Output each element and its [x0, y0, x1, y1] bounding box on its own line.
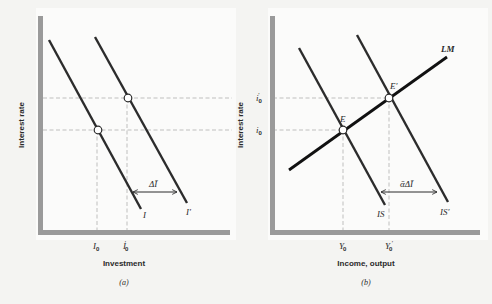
x-axis-b	[270, 230, 480, 235]
curve-label-LM: LM	[440, 44, 455, 54]
tick-Y0-prime: Y0′	[385, 239, 393, 252]
curve-label-I-prime: I′	[185, 207, 192, 217]
equilibrium-point-E	[339, 126, 347, 134]
x-axis-title-b: Income, output	[337, 259, 395, 268]
panel-b-area	[268, 8, 488, 240]
point-I0prime	[124, 94, 132, 102]
delta-I-label: ΔĪ	[148, 179, 158, 189]
x-axis-title-a: Investment	[103, 259, 146, 268]
point-label-E-prime: E′	[389, 81, 398, 91]
equilibrium-point-E-prime	[385, 94, 393, 102]
curve-label-IS-prime: IS′	[439, 207, 450, 217]
panel-caption-a: (a)	[119, 278, 129, 287]
x-axis-a	[38, 230, 230, 235]
alpha-delta-I-label: ᾱΔĪ	[400, 179, 414, 189]
y-axis-title-b: Interest rate	[236, 102, 245, 148]
panel-caption-b: (b)	[361, 278, 371, 287]
y-axis-title-a: Interest rate	[17, 102, 26, 148]
point-I0	[94, 126, 102, 134]
point-label-E: E	[339, 114, 346, 124]
islm-investment-figure: ΔĪ I I′ I0 I0′ Investment (a) Interest r…	[0, 0, 492, 304]
y-axis-a	[38, 16, 43, 235]
panel-a-area	[36, 8, 236, 240]
curve-label-IS: IS	[376, 209, 385, 219]
y-axis-b	[270, 16, 275, 235]
